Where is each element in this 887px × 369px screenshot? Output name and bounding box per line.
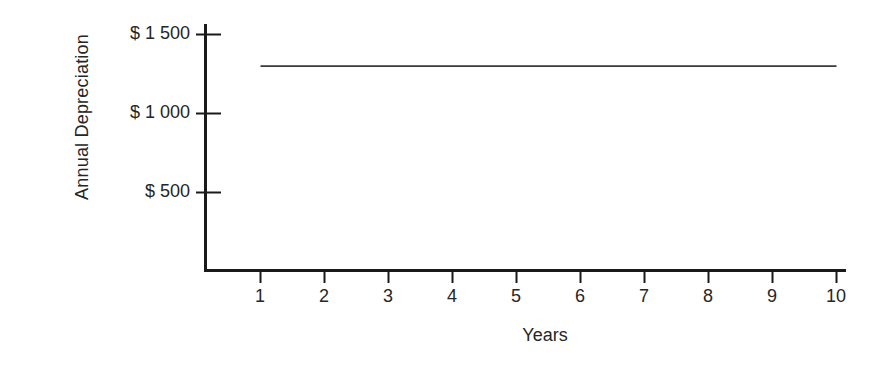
plot-area (0, 0, 887, 369)
chart-figure: Annual Depreciation $ 1 500 $ 1 000 $ 50… (0, 0, 887, 369)
